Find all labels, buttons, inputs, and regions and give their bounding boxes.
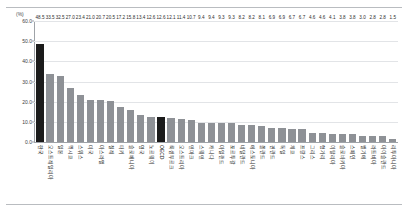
bar-item[interactable]: 15.8 (126, 21, 136, 142)
plot-area: 0.010.020.030.040.050.060.0 48.533.532.5… (34, 21, 398, 143)
bar[interactable]: 3.8 (339, 134, 346, 142)
bar[interactable]: 20.7 (97, 100, 104, 142)
x-axis-label-cell: 칠레 (106, 144, 116, 206)
bar[interactable]: 6.7 (298, 129, 305, 143)
bar[interactable]: 6.7 (288, 129, 295, 143)
bar-item[interactable]: 2.8 (368, 21, 378, 142)
bar-item[interactable]: 23.4 (75, 21, 85, 142)
bar[interactable]: 6.9 (278, 128, 285, 142)
bar[interactable]: 6.9 (268, 128, 275, 142)
bar[interactable]: 4.1 (329, 134, 336, 142)
x-axis-category-label: 프랑스 (300, 145, 305, 160)
bar[interactable]: 8.2 (238, 125, 245, 142)
bar[interactable]: 4.6 (309, 133, 316, 142)
bar-item[interactable]: 3.8 (337, 21, 347, 142)
bar-item[interactable]: 20.7 (95, 21, 105, 142)
bar-item[interactable]: 4.6 (317, 21, 327, 142)
bar-item[interactable]: 12.1 (166, 21, 176, 142)
bar-item[interactable]: 32.5 (55, 21, 65, 142)
bar[interactable]: 21.0 (87, 100, 94, 142)
x-axis-label-cell: 미국 (85, 144, 95, 206)
bar-value-label: 11.4 (177, 16, 186, 21)
bar-item[interactable]: 6.7 (297, 21, 307, 142)
bar-item[interactable]: 13.4 (136, 21, 146, 142)
bar[interactable]: 12.6 (147, 117, 154, 142)
bar-item[interactable]: 27.0 (65, 21, 75, 142)
bar-item[interactable]: 8.2 (247, 21, 257, 142)
bar[interactable]: 3.0 (359, 136, 366, 142)
bar-item[interactable]: 6.7 (287, 21, 297, 142)
bar-value-label: 4.1 (329, 16, 335, 21)
x-axis-label-cell: 오스트레일리아 (45, 144, 55, 206)
bar[interactable]: 17.2 (117, 107, 124, 142)
bar-item[interactable]: 48.5 (35, 21, 45, 142)
bar-item[interactable]: 1.5 (388, 21, 398, 142)
bar[interactable]: 2.8 (369, 136, 376, 142)
x-axis-category-label: 독일 (279, 145, 284, 155)
bar-item[interactable]: 12.6 (156, 21, 166, 142)
bar-value-label: 17.2 (116, 16, 125, 21)
bar-item[interactable]: 3.8 (347, 21, 357, 142)
bar-item[interactable]: 4.6 (307, 21, 317, 142)
bar[interactable]: 27.0 (67, 88, 74, 142)
x-axis-category-label: 영국 (138, 145, 143, 155)
x-axis-category-label: 아일랜드 (219, 145, 224, 165)
x-axis-category-label: 스웨덴 (199, 145, 204, 160)
x-axis-label-cell: 핀란드 (267, 144, 277, 206)
bar[interactable]: 23.4 (77, 95, 84, 142)
bar-item[interactable]: 9.3 (216, 21, 226, 142)
bar[interactable]: 8.1 (258, 126, 265, 142)
bar-item[interactable]: 3.0 (358, 21, 368, 142)
bar[interactable]: 32.5 (57, 76, 64, 142)
bar-item[interactable]: 20.5 (106, 21, 116, 142)
bar[interactable]: 13.4 (137, 115, 144, 142)
x-axis-category-label: 네덜란드 (239, 145, 244, 165)
bar[interactable]: 12.1 (167, 118, 174, 142)
x-axis-label-cell: 아일랜드 (216, 144, 226, 206)
bar-item[interactable]: 8.1 (257, 21, 267, 142)
x-axis-category-label: 이탈리아 (330, 145, 335, 165)
bar[interactable]: 48.5 (36, 44, 43, 142)
bar[interactable]: 9.4 (198, 123, 205, 142)
bar[interactable]: 1.5 (389, 139, 396, 142)
x-axis-label-cell: 이탈리아 (327, 144, 337, 206)
x-axis-category-label: 오스트레일리아 (48, 145, 53, 180)
bar-item[interactable]: 9.4 (196, 21, 206, 142)
x-axis-label-cell: 노르웨이 (146, 144, 156, 206)
bar-item[interactable]: 6.9 (277, 21, 287, 142)
bar-item[interactable]: 33.5 (45, 21, 55, 142)
x-axis-label-cell: 스웨덴 (196, 144, 206, 206)
x-axis-category-label: 그리스 (310, 145, 315, 160)
x-axis-label-cell: 멕시코 (65, 144, 75, 206)
bar-item[interactable]: 8.2 (237, 21, 247, 142)
bar-item[interactable]: 9.4 (206, 21, 216, 142)
y-axis-tick-mark (32, 121, 34, 122)
bar-item[interactable]: 2.8 (378, 21, 388, 142)
bar-item[interactable]: 10.7 (186, 21, 196, 142)
bar[interactable]: 11.4 (178, 119, 185, 142)
bar[interactable]: 4.6 (319, 133, 326, 142)
bar[interactable]: 20.5 (107, 101, 114, 142)
bar[interactable]: 12.6 (157, 117, 164, 142)
x-axis-category-label: 멕시코 (68, 145, 73, 160)
bar[interactable]: 10.7 (188, 120, 195, 142)
bar[interactable]: 8.2 (248, 125, 255, 142)
x-axis-label-cell: 영국 (136, 144, 146, 206)
bar[interactable]: 15.8 (127, 110, 134, 142)
bar[interactable]: 2.8 (379, 136, 386, 142)
y-axis-tick-label: 40.0 (22, 58, 32, 64)
bar-item[interactable]: 21.0 (85, 21, 95, 142)
bar-item[interactable]: 9.3 (226, 21, 236, 142)
bar-item[interactable]: 12.6 (146, 21, 156, 142)
bar-item[interactable]: 17.2 (116, 21, 126, 142)
bar[interactable]: 33.5 (46, 74, 53, 142)
bar-item[interactable]: 4.1 (327, 21, 337, 142)
bar[interactable]: 9.3 (218, 123, 225, 142)
x-axis-label-cell: 리투아니아 (388, 144, 398, 206)
bar[interactable]: 9.3 (228, 123, 235, 142)
bar-item[interactable]: 6.9 (267, 21, 277, 142)
bar[interactable]: 9.4 (208, 123, 215, 142)
divider-top (6, 7, 402, 8)
bar-item[interactable]: 11.4 (176, 21, 186, 142)
bar[interactable]: 3.8 (349, 134, 356, 142)
